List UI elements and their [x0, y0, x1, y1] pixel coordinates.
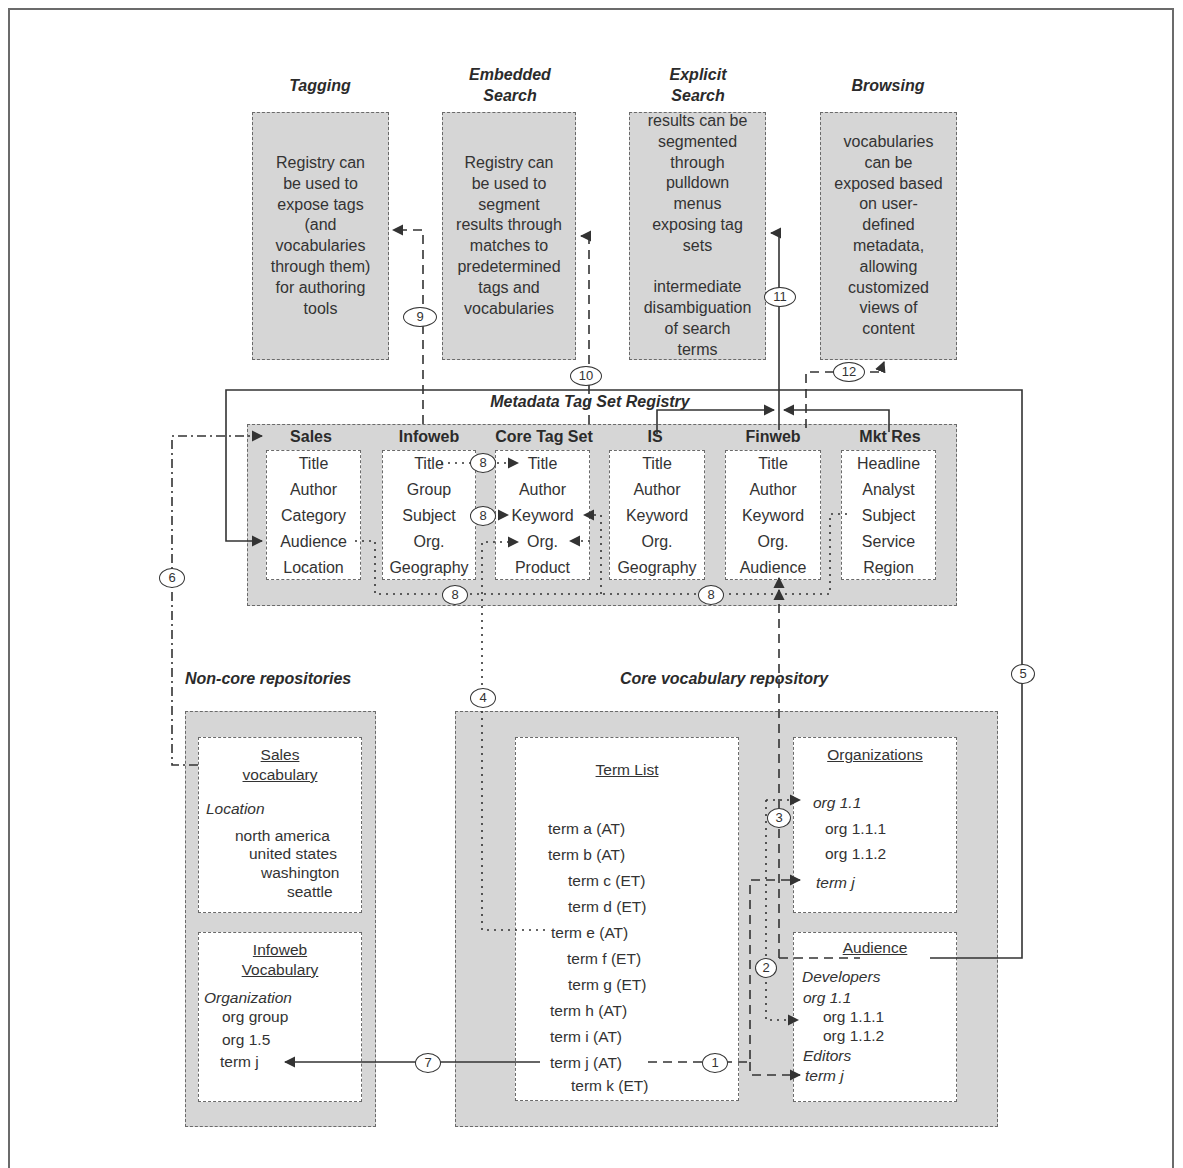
audience-group: Developers: [802, 967, 880, 986]
sales-vocab-box: Sales vocabulary Location north america …: [198, 737, 362, 913]
organizations-title: Organizations: [794, 745, 956, 764]
field: Title: [610, 451, 704, 477]
vocab-term: org 1.5: [222, 1030, 270, 1049]
term-item: term b (AT): [548, 845, 625, 864]
field: Analyst: [842, 477, 935, 503]
heading-browsing: Browsing: [818, 75, 958, 96]
tagset-box-infoweb: Title Group Subject Org. Geography: [382, 450, 476, 580]
field: Product: [496, 555, 589, 581]
infoweb-vocab-box: Infoweb Vocabulary Organization org grou…: [198, 932, 362, 1102]
field: Author: [610, 477, 704, 503]
tagset-title-is: IS: [640, 428, 670, 446]
core-title: Core vocabulary repository: [620, 668, 870, 689]
tagset-title-infoweb: Infoweb: [382, 428, 476, 446]
infoweb-vocab-category: Organization: [204, 988, 292, 1007]
audience-group: Editors: [803, 1046, 851, 1065]
field: Headline: [842, 451, 935, 477]
field: Org.: [496, 529, 589, 555]
field: Author: [726, 477, 820, 503]
sales-vocab-category: Location: [206, 799, 265, 818]
heading-tagging: Tagging: [250, 75, 390, 96]
vocab-term: org group: [222, 1007, 288, 1026]
term-item: term j (AT): [550, 1053, 622, 1072]
audience-box: Audience Developers org 1.1 org 1.1.1 or…: [793, 932, 957, 1102]
field: Region: [842, 555, 935, 581]
field: Keyword: [726, 503, 820, 529]
term-item: term e (AT): [551, 923, 628, 942]
field: Title: [726, 451, 820, 477]
connector-badge-8d: 8: [698, 585, 724, 605]
tagset-box-core: Title Author Keyword Org. Product: [495, 450, 590, 580]
infoweb-vocab-title-1: Infoweb: [199, 940, 361, 959]
connector-badge-12: 12: [833, 362, 865, 382]
field: Subject: [842, 503, 935, 529]
connector-badge-7: 7: [415, 1053, 441, 1073]
connector-badge-9: 9: [403, 307, 437, 327]
heading-explicit-search: ExplicitSearch: [628, 64, 768, 106]
sales-vocab-title-2: vocabulary: [199, 765, 361, 784]
field: Org.: [726, 529, 820, 555]
field: Org.: [383, 529, 475, 555]
tagset-title-finweb: Finweb: [725, 428, 821, 446]
connector-badge-4: 4: [470, 688, 496, 708]
audience-item: org 1.1.1: [823, 1007, 884, 1026]
audience-item: term j: [805, 1066, 844, 1085]
vocab-term: washington: [261, 863, 339, 882]
org-item: org 1.1: [813, 793, 861, 812]
field: Title: [383, 451, 475, 477]
infoweb-vocab-title-2: Vocabulary: [199, 960, 361, 979]
tagset-title-mktres: Mkt Res: [843, 428, 937, 446]
field: Location: [267, 555, 360, 581]
term-item: term k (ET): [571, 1076, 649, 1095]
term-item: term f (ET): [567, 949, 641, 968]
org-item: term j: [816, 873, 855, 892]
vocab-term: north america: [235, 826, 330, 845]
tagset-title-core: Core Tag Set: [485, 428, 603, 446]
vocab-term: seattle: [287, 882, 333, 901]
term-item: term h (AT): [550, 1001, 627, 1020]
field: Author: [496, 477, 589, 503]
connector-badge-8c: 8: [442, 585, 468, 605]
usecase-box-embedded-search: Registry canbe used tosegmentresults thr…: [442, 112, 576, 360]
registry-title: Metadata Tag Set Registry: [470, 391, 710, 412]
term-item: term d (ET): [568, 897, 646, 916]
term-item: term a (AT): [548, 819, 625, 838]
field: Audience: [726, 555, 820, 581]
non-core-title: Non-core repositories: [185, 668, 385, 689]
sales-vocab-title-1: Sales: [199, 745, 361, 764]
audience-title: Audience: [794, 938, 956, 957]
usecase-text-embedded-search: Registry canbe used tosegmentresults thr…: [443, 153, 575, 319]
field: Audience: [267, 529, 360, 555]
field: Keyword: [496, 503, 589, 529]
field: Keyword: [610, 503, 704, 529]
connector-badge-8b: 8: [470, 506, 496, 526]
field: Geography: [610, 555, 704, 581]
vocab-term: united states: [249, 844, 337, 863]
field: Title: [496, 451, 589, 477]
tagset-box-sales: Title Author Category Audience Location: [266, 450, 361, 580]
usecase-box-explicit-search: results can besegmentedthroughpulldownme…: [629, 112, 766, 360]
audience-item: org 1.1: [803, 988, 851, 1007]
org-item: org 1.1.1: [825, 819, 886, 838]
usecase-text-browsing: vocabulariescan beexposed basedon user-d…: [821, 132, 956, 340]
term-list-box: Term List term a (AT) term b (AT) term c…: [515, 737, 739, 1101]
field: Category: [267, 503, 360, 529]
usecase-text-tagging: Registry canbe used toexpose tags(andvoc…: [253, 153, 388, 319]
field: Org.: [610, 529, 704, 555]
usecase-box-browsing: vocabulariescan beexposed basedon user-d…: [820, 112, 957, 360]
field: Title: [267, 451, 360, 477]
term-item: term c (ET): [568, 871, 646, 890]
connector-badge-6: 6: [159, 568, 185, 588]
term-item: term i (AT): [550, 1027, 622, 1046]
audience-item: org 1.1.2: [823, 1026, 884, 1045]
tagset-title-sales: Sales: [266, 428, 356, 446]
connector-badge-3: 3: [767, 808, 791, 828]
vocab-term: term j: [220, 1052, 259, 1071]
tagset-box-is: Title Author Keyword Org. Geography: [609, 450, 705, 580]
connector-badge-2: 2: [755, 958, 777, 978]
tagset-box-mktres: Headline Analyst Subject Service Region: [841, 450, 936, 580]
connector-badge-1: 1: [702, 1053, 728, 1073]
heading-embedded-search: EmbeddedSearch: [440, 64, 580, 106]
field: Subject: [383, 503, 475, 529]
connector-badge-10: 10: [570, 366, 602, 386]
